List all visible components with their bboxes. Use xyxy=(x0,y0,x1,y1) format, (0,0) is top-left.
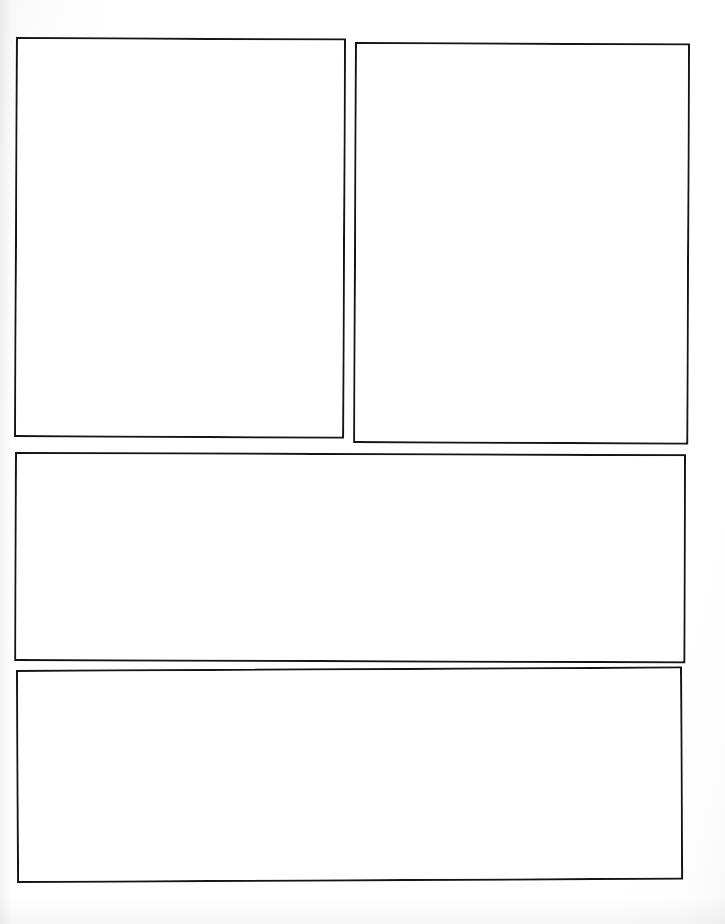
panel-2-content xyxy=(355,44,688,442)
panel-1-content xyxy=(16,39,344,437)
panel-1[interactable] xyxy=(14,37,346,439)
page-sheet xyxy=(0,0,725,924)
panel-3[interactable] xyxy=(14,452,686,663)
panel-3-content xyxy=(16,454,684,661)
panel-4-content xyxy=(18,669,681,881)
scan-edge-shadow-bottom xyxy=(0,898,725,924)
panel-4[interactable] xyxy=(16,667,683,883)
scan-edge-shadow-left xyxy=(0,0,12,924)
panel-2[interactable] xyxy=(353,42,690,445)
